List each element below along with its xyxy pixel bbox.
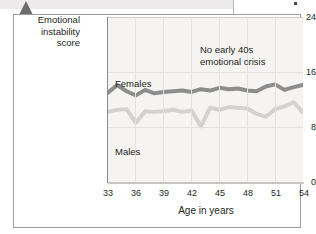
x-tick-label: 33 — [98, 188, 118, 198]
x-tick-label: 45 — [210, 188, 230, 198]
y-tick-label: 16 — [212, 67, 316, 77]
x-tick-label: 39 — [154, 188, 174, 198]
x-tick-label: 54 — [294, 188, 314, 198]
y-axis-title-line-3: score — [8, 37, 80, 49]
y-axis-line — [107, 17, 108, 183]
gridline-vertical — [219, 17, 220, 182]
gridline-vertical — [275, 17, 276, 182]
gridline-vertical — [191, 17, 192, 182]
x-tick-label: 48 — [238, 188, 258, 198]
series-label-females: Females — [115, 78, 151, 89]
y-axis-title-line-1: Emotional — [8, 14, 80, 26]
top-gray-band — [0, 0, 233, 9]
x-tick-label: 42 — [182, 188, 202, 198]
gridline-vertical — [135, 17, 136, 182]
y-axis-title: Emotional instability score — [8, 14, 80, 49]
annotation-note-line-2: emotional crisis — [200, 56, 265, 68]
series-plot — [108, 17, 303, 182]
x-axis-label: Age in years — [108, 205, 304, 216]
x-tick-label: 36 — [126, 188, 146, 198]
y-tick-label: 24 — [212, 12, 316, 22]
gridline-vertical — [163, 17, 164, 182]
gridline-vertical — [247, 17, 248, 182]
plot-area — [108, 17, 303, 182]
top-tick-mark-icon — [294, 2, 297, 5]
triangle-pointer-icon — [19, 1, 33, 15]
y-axis-title-line-2: instability — [8, 26, 80, 38]
annotation-note-line-1: No early 40s — [200, 44, 265, 56]
y-tick-label: 8 — [212, 122, 316, 132]
series-label-males: Males — [115, 146, 140, 157]
x-tick-label: 51 — [266, 188, 286, 198]
annotation-note: No early 40s emotional crisis — [200, 44, 265, 67]
y-tick-label: 0 — [212, 177, 316, 187]
